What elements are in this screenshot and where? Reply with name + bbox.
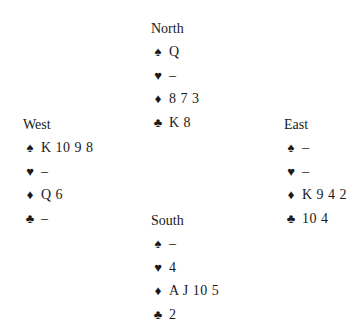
suit-row-diamonds: ♦8 7 3 (151, 87, 200, 111)
cards-diamonds: Q 6 (41, 187, 63, 202)
spade-icon: ♠ (23, 136, 37, 160)
hand-name-east: East (284, 113, 347, 136)
heart-icon: ♥ (151, 64, 165, 88)
diamond-icon: ♦ (23, 183, 37, 207)
heart-icon: ♥ (151, 256, 165, 280)
diamond-icon: ♦ (284, 183, 298, 207)
suit-row-spades: ♠K 10 9 8 (23, 136, 94, 160)
suit-row-hearts: ♥– (151, 64, 200, 88)
club-icon: ♣ (284, 207, 298, 231)
hand-name-west: West (23, 113, 94, 136)
suit-row-diamonds: ♦A J 10 5 (151, 279, 219, 303)
south-hand: South ♠– ♥4 ♦A J 10 5 ♣2 (151, 209, 219, 322)
north-hand: North ♠Q ♥– ♦8 7 3 ♣K 8 (151, 17, 200, 134)
suit-row-spades: ♠– (284, 136, 347, 160)
club-icon: ♣ (23, 207, 37, 231)
cards-clubs: – (41, 211, 49, 226)
diamond-icon: ♦ (151, 87, 165, 111)
club-icon: ♣ (151, 111, 165, 135)
cards-diamonds: K 9 4 2 (302, 187, 347, 202)
cards-spades: K 10 9 8 (41, 140, 94, 155)
cards-clubs: K 8 (169, 115, 191, 130)
suit-row-clubs: ♣2 (151, 303, 219, 322)
suit-row-diamonds: ♦K 9 4 2 (284, 183, 347, 207)
cards-diamonds: A J 10 5 (169, 283, 219, 298)
cards-diamonds: 8 7 3 (169, 91, 200, 106)
suit-row-spades: ♠Q (151, 40, 200, 64)
hand-name-north: North (151, 17, 200, 40)
suit-row-hearts: ♥4 (151, 256, 219, 280)
west-hand: West ♠K 10 9 8 ♥– ♦Q 6 ♣– (23, 113, 94, 230)
cards-hearts: – (41, 164, 49, 179)
suit-row-hearts: ♥– (284, 160, 347, 184)
spade-icon: ♠ (284, 136, 298, 160)
cards-clubs: 10 4 (302, 211, 329, 226)
suit-row-clubs: ♣– (23, 207, 94, 231)
suit-row-hearts: ♥– (23, 160, 94, 184)
cards-spades: Q (169, 44, 180, 59)
suit-row-spades: ♠– (151, 232, 219, 256)
spade-icon: ♠ (151, 40, 165, 64)
diamond-icon: ♦ (151, 279, 165, 303)
heart-icon: ♥ (284, 160, 298, 184)
suit-row-clubs: ♣10 4 (284, 207, 347, 231)
heart-icon: ♥ (23, 160, 37, 184)
suit-row-clubs: ♣K 8 (151, 111, 200, 135)
cards-clubs: 2 (169, 307, 177, 322)
cards-spades: – (302, 140, 310, 155)
cards-hearts: – (169, 68, 177, 83)
cards-hearts: 4 (169, 260, 177, 275)
cards-hearts: – (302, 164, 310, 179)
suit-row-diamonds: ♦Q 6 (23, 183, 94, 207)
spade-icon: ♠ (151, 232, 165, 256)
hand-name-south: South (151, 209, 219, 232)
east-hand: East ♠– ♥– ♦K 9 4 2 ♣10 4 (284, 113, 347, 230)
cards-spades: – (169, 236, 177, 251)
club-icon: ♣ (151, 303, 165, 322)
